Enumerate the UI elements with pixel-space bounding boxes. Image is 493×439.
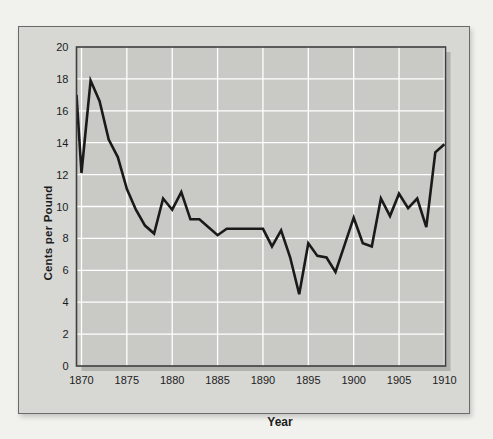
line-chart: 0246810121416182018701875188018851890189… — [0, 0, 493, 439]
x-tick-label: 1885 — [205, 374, 229, 386]
x-tick-label: 1875 — [115, 374, 139, 386]
y-tick-label: 20 — [56, 41, 68, 53]
x-tick-label: 1910 — [432, 374, 456, 386]
x-tick-label: 1890 — [251, 374, 275, 386]
y-tick-label: 8 — [62, 232, 68, 244]
page-background: Cents per Pound Year 0246810121416182018… — [0, 0, 493, 439]
y-tick-label: 14 — [56, 137, 68, 149]
y-tick-label: 0 — [62, 360, 68, 372]
y-tick-label: 2 — [62, 328, 68, 340]
x-tick-label: 1900 — [341, 374, 365, 386]
y-tick-label: 16 — [56, 105, 68, 117]
y-tick-label: 12 — [56, 169, 68, 181]
y-tick-label: 10 — [56, 201, 68, 213]
x-tick-label: 1905 — [387, 374, 411, 386]
y-tick-label: 6 — [62, 264, 68, 276]
x-tick-label: 1895 — [296, 374, 320, 386]
y-tick-label: 4 — [62, 296, 68, 308]
y-tick-label: 18 — [56, 73, 68, 85]
x-tick-label: 1870 — [69, 374, 93, 386]
x-tick-label: 1880 — [160, 374, 184, 386]
